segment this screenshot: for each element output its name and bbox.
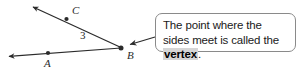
angle-vertex-figure: C B A 3 The point where the sides meet i…: [0, 0, 299, 71]
vertex-term-highlight: vertex: [163, 48, 198, 60]
point-c-dot: [64, 17, 68, 21]
ray-ba: [9, 48, 121, 56]
callout-pointer-line: [130, 37, 155, 45]
point-label-b-vertex: B: [127, 50, 134, 61]
point-a-dot: [46, 51, 50, 55]
vertex-point-b: [119, 46, 124, 51]
point-label-c: C: [72, 5, 79, 16]
callout-text-after: .: [198, 48, 201, 60]
callout-text-before: The point where the sides meet is called…: [163, 19, 279, 46]
callout-text: The point where the sides meet is called…: [163, 18, 290, 62]
point-label-a: A: [44, 58, 51, 69]
angle-number-label: 3: [80, 30, 86, 41]
callout-box: The point where the sides meet is called…: [155, 13, 296, 52]
